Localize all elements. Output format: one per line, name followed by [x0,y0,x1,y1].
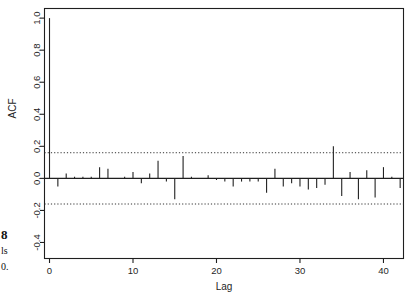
svg-text:-0.4: -0.4 [31,234,42,250]
caption-fragment-bold: 8 [1,228,8,241]
y-axis: -0.4-0.20.00.20.40.60.81.0 [31,12,45,251]
svg-text:0.2: 0.2 [31,140,42,153]
svg-text:0.4: 0.4 [31,108,42,121]
svg-text:30: 30 [295,265,306,276]
acf-plot: 010203040 -0.4-0.20.00.20.40.60.81.0 Lag… [0,0,410,297]
axis-titles: LagACF [7,99,233,292]
acf-figure: 010203040 -0.4-0.20.00.20.40.60.81.0 Lag… [0,0,410,297]
x-axis: 010203040 [47,259,389,276]
svg-text:0.6: 0.6 [31,76,42,89]
svg-text:10: 10 [128,265,139,276]
plot-frame [45,9,404,259]
caption-fragment-middle: ls [1,246,8,256]
svg-text:40: 40 [378,265,389,276]
x-axis-title: Lag [216,281,233,292]
svg-text:20: 20 [211,265,222,276]
svg-text:0.0: 0.0 [31,172,42,185]
caption-fragment-lower: 0. [1,262,9,272]
svg-text:0: 0 [47,265,52,276]
svg-text:-0.2: -0.2 [31,202,42,218]
svg-text:1.0: 1.0 [31,12,42,25]
y-axis-title: ACF [7,99,18,119]
acf-spikes [50,18,401,199]
svg-text:0.8: 0.8 [31,44,42,57]
